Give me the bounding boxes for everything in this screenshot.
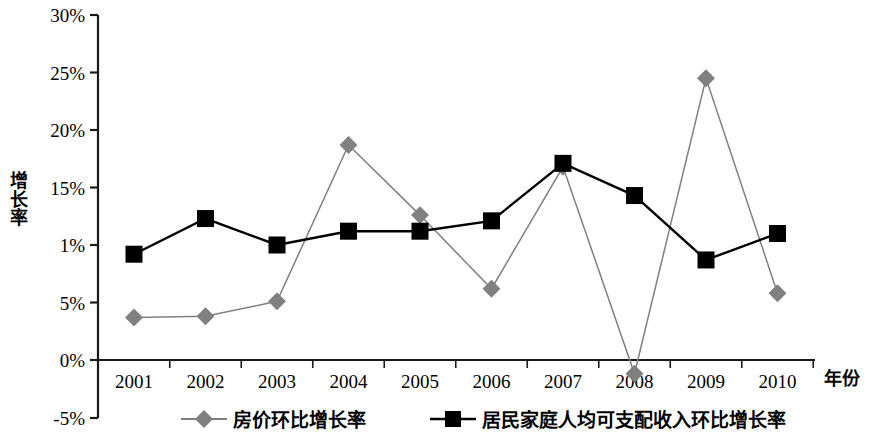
y-axis-tick-label: 15% bbox=[50, 178, 85, 199]
x-axis-tick-label: 2002 bbox=[187, 371, 225, 392]
series-line bbox=[134, 163, 778, 260]
data-point-marker bbox=[125, 308, 143, 326]
y-axis-tick-label: 1% bbox=[60, 235, 86, 256]
y-axis-tick-label: 5% bbox=[60, 293, 86, 314]
y-axis-tick-label: 0% bbox=[60, 350, 86, 371]
data-point-marker bbox=[483, 212, 500, 229]
data-point-marker bbox=[445, 411, 461, 427]
data-point-marker bbox=[698, 251, 715, 268]
line-chart: 30%25%20%15%1%5%0%-5% 200120022003200420… bbox=[0, 0, 873, 434]
legend-item-2[interactable]: 居民家庭人均可支配收入环比增长率 bbox=[430, 409, 786, 431]
x-axis-tick-label: 2009 bbox=[687, 371, 725, 392]
data-point-marker bbox=[769, 284, 787, 302]
data-point-marker bbox=[340, 223, 357, 240]
data-series-group bbox=[125, 69, 786, 382]
x-axis: 2001200220032004200520062007200820092010 bbox=[98, 360, 815, 392]
y-axis-tick-label: -5% bbox=[53, 408, 85, 429]
data-point-marker bbox=[555, 155, 572, 172]
data-point-marker bbox=[769, 225, 786, 242]
data-point-marker bbox=[269, 237, 286, 254]
y-axis-tick-label: 30% bbox=[50, 5, 85, 26]
data-point-marker bbox=[412, 223, 429, 240]
legend-item-1[interactable]: 房价环比增长率 bbox=[181, 409, 366, 431]
data-point-marker bbox=[195, 410, 213, 428]
data-point-marker bbox=[126, 246, 143, 263]
chart-legend: 房价环比增长率居民家庭人均可支配收入环比增长率 bbox=[181, 409, 786, 431]
x-axis-title: 年份 bbox=[824, 368, 861, 389]
x-axis-tick-label: 2005 bbox=[401, 371, 439, 392]
data-point-marker bbox=[697, 69, 715, 87]
x-axis-tick-label: 2003 bbox=[258, 371, 296, 392]
y-axis-tick-label: 20% bbox=[50, 120, 85, 141]
x-axis-tick-label: 2004 bbox=[330, 371, 369, 392]
x-axis-tick-label: 2006 bbox=[473, 371, 511, 392]
data-point-marker bbox=[626, 187, 643, 204]
data-point-marker bbox=[268, 292, 286, 310]
data-point-marker bbox=[197, 307, 215, 325]
legend-label: 居民家庭人均可支配收入环比增长率 bbox=[482, 409, 786, 431]
chart-container: 增 长 率 30%25%20%15%1%5%0%-5% 200120022003… bbox=[0, 0, 873, 434]
y-axis: 30%25%20%15%1%5%0%-5% bbox=[50, 5, 98, 429]
x-axis-tick-label: 2001 bbox=[115, 371, 153, 392]
y-axis-tick-label: 25% bbox=[50, 63, 85, 84]
x-axis-tick-label: 2007 bbox=[544, 371, 582, 392]
x-axis-tick-label: 2010 bbox=[759, 371, 797, 392]
legend-label: 房价环比增长率 bbox=[233, 409, 366, 431]
data-point-marker bbox=[197, 210, 214, 227]
